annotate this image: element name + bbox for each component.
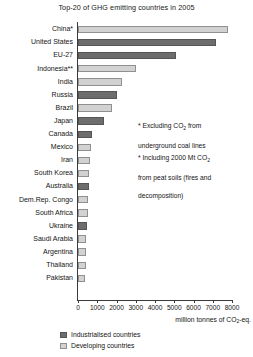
x-tick-label: 3000 — [128, 304, 143, 311]
bar-row: Argentina — [0, 247, 253, 260]
legend-label: Developing countries — [71, 341, 134, 351]
bar — [78, 222, 87, 229]
bar — [78, 78, 122, 85]
annotation-2-line1-pre: * Including 2000 Mt CO — [138, 154, 207, 161]
category-label: Pakistan — [46, 273, 73, 282]
annotation-2-line2: from peat soils (fires and — [138, 174, 211, 181]
bar — [78, 117, 104, 124]
x-axis-title-sub: 2 — [237, 318, 240, 324]
legend-swatch — [60, 343, 67, 350]
category-label: Mexico — [51, 142, 73, 151]
category-label: Argentina — [43, 247, 73, 256]
category-label: South Korea — [34, 168, 73, 177]
x-tick-label: 1000 — [90, 304, 105, 311]
bar-row: South Africa — [0, 208, 253, 221]
x-tick-label: 6000 — [186, 304, 201, 311]
x-axis-title: million tonnes of CO2-eq. — [175, 316, 251, 323]
bar — [78, 26, 228, 33]
bar — [78, 52, 176, 59]
bar — [78, 91, 117, 98]
bar — [78, 235, 86, 242]
bar — [78, 209, 88, 216]
category-label: Indonesia** — [37, 64, 73, 73]
bar — [78, 131, 92, 138]
x-tick — [194, 300, 195, 303]
bar-row: Thailand — [0, 260, 253, 273]
bar-row: Saudi Arabia — [0, 234, 253, 247]
bar — [78, 65, 136, 72]
x-axis-title-pre: million tonnes of CO — [175, 316, 236, 323]
x-tick-label: 0 — [76, 304, 80, 311]
x-tick-label: 7000 — [205, 304, 220, 311]
annotation-including-peat: * Including 2000 Mt CO2 from peat soils … — [138, 144, 211, 201]
bar-row: Ukraine — [0, 221, 253, 234]
bar-row: United States — [0, 37, 253, 50]
plot-area: China*United StatesEU-27Indonesia**India… — [0, 22, 253, 300]
bar — [78, 144, 91, 151]
category-label: Japan — [54, 116, 73, 125]
bar — [78, 275, 85, 282]
category-label: Australia — [46, 181, 73, 190]
x-axis-title-post: -eq. — [239, 316, 251, 323]
bar-row: Australia — [0, 181, 253, 194]
x-tick — [117, 300, 118, 303]
category-label: Iran — [61, 155, 73, 164]
bar-row: Indonesia** — [0, 64, 253, 77]
x-tick-label: 4000 — [148, 304, 163, 311]
bar — [78, 248, 86, 255]
chart-title: Top-20 of GHG emitting countries in 2005 — [0, 3, 253, 12]
x-tick-label: 8000 — [225, 304, 240, 311]
bar-row: Iran — [0, 155, 253, 168]
bar — [78, 196, 88, 203]
x-tick — [136, 300, 137, 303]
bar-row: Dem.Rep. Congo — [0, 195, 253, 208]
bar-row: Russia — [0, 90, 253, 103]
annotation-1-line1-pre: * Excluding CO — [138, 122, 183, 129]
category-label: Canada — [48, 129, 73, 138]
annotation-2-line3: decomposition) — [138, 192, 183, 199]
x-tick — [78, 300, 79, 303]
bar-row: Mexico — [0, 142, 253, 155]
x-tick — [213, 300, 214, 303]
bar-row: EU-27 — [0, 50, 253, 63]
x-tick — [174, 300, 175, 303]
category-label: Russia — [52, 90, 73, 99]
x-tick — [155, 300, 156, 303]
category-label: Saudi Arabia — [33, 234, 73, 243]
category-label: Brazil — [55, 103, 73, 112]
bar-row: Canada — [0, 129, 253, 142]
x-tick-label: 2000 — [109, 304, 124, 311]
bar-row: Japan — [0, 116, 253, 129]
ghg-emitting-countries-bar-chart: Top-20 of GHG emitting countries in 2005… — [0, 0, 253, 357]
x-tick — [97, 300, 98, 303]
annotation-2-line1-sub: 2 — [207, 157, 210, 163]
category-label: India — [58, 77, 73, 86]
category-label: Thailand — [46, 260, 73, 269]
bar — [78, 104, 112, 111]
category-label: China* — [52, 24, 73, 33]
annotation-1-line1-post: from — [186, 122, 201, 129]
legend-label: Industrialised countries — [71, 330, 141, 340]
category-label: Ukraine — [49, 221, 73, 230]
category-label: EU-27 — [53, 50, 73, 59]
bar-row: China* — [0, 24, 253, 37]
legend-swatch — [60, 332, 67, 339]
category-label: United States — [31, 37, 73, 46]
x-tick — [232, 300, 233, 303]
bar-row: Pakistan — [0, 273, 253, 286]
bar — [78, 157, 90, 164]
bar — [78, 39, 216, 46]
bar-row: Brazil — [0, 103, 253, 116]
bar — [78, 170, 89, 177]
bar — [78, 262, 86, 269]
bar-row: South Korea — [0, 168, 253, 181]
bar-row: India — [0, 77, 253, 90]
category-label: Dem.Rep. Congo — [19, 195, 73, 204]
bar — [78, 183, 89, 190]
x-tick-label: 5000 — [167, 304, 182, 311]
annotation-1-line1-sub: 2 — [183, 125, 186, 131]
category-label: South Africa — [35, 208, 73, 217]
